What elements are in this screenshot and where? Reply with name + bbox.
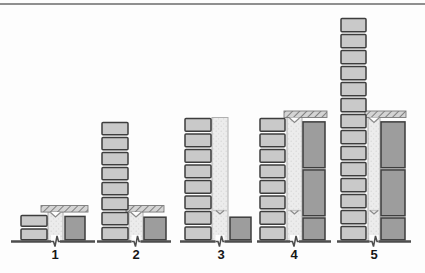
brick <box>341 35 366 48</box>
dark-block <box>65 216 85 239</box>
dark-block <box>303 122 325 168</box>
dark-block <box>230 217 251 240</box>
stage-4-label: 4 <box>282 247 306 262</box>
stage-5-label: 5 <box>362 247 386 262</box>
brick <box>260 212 285 225</box>
cap-plate <box>284 111 327 118</box>
dark-block <box>381 122 405 168</box>
brick <box>260 134 285 147</box>
brick <box>341 179 366 192</box>
dark-block <box>303 170 325 216</box>
brick <box>260 181 285 194</box>
brick <box>260 150 285 163</box>
cap-plate <box>365 111 406 118</box>
figure-page: 1 2 3 4 5 <box>0 0 425 273</box>
brick <box>341 99 366 112</box>
brick <box>260 119 285 132</box>
brick <box>341 211 366 224</box>
stage-4-group <box>257 111 331 248</box>
brick <box>341 83 366 96</box>
stage-5-group <box>337 19 411 249</box>
dark-block <box>381 218 405 240</box>
brick <box>341 67 366 80</box>
brick <box>185 165 211 178</box>
dark-block <box>144 217 166 240</box>
mortar-column <box>287 118 302 242</box>
brick <box>341 131 366 144</box>
brick <box>102 138 128 150</box>
stage-2-group <box>97 123 171 249</box>
brick <box>185 196 211 209</box>
brick <box>185 227 211 240</box>
mortar-column <box>368 118 380 242</box>
stage-2-label: 2 <box>124 247 148 262</box>
cap-plate <box>41 206 88 213</box>
brick <box>102 198 128 210</box>
brick <box>102 153 128 165</box>
brick <box>341 147 366 160</box>
brick <box>102 228 128 240</box>
brick <box>341 163 366 176</box>
brick <box>102 183 128 195</box>
brick <box>185 119 211 132</box>
brick <box>185 134 211 147</box>
brick <box>341 19 366 32</box>
brick <box>260 196 285 209</box>
brick <box>21 229 47 240</box>
brick <box>102 213 128 225</box>
brick <box>102 123 128 135</box>
brick <box>185 212 211 225</box>
stage-1-label: 1 <box>43 247 67 262</box>
masonry-stages-figure <box>0 0 425 273</box>
brick <box>260 165 285 178</box>
mortar-column <box>212 118 228 242</box>
brick <box>185 181 211 194</box>
cap-plate <box>126 206 164 213</box>
stage-3-label: 3 <box>209 247 233 262</box>
brick <box>185 150 211 163</box>
brick <box>102 168 128 180</box>
brick <box>260 227 285 240</box>
brick <box>341 195 366 208</box>
stage-1-group <box>11 206 95 248</box>
stage-3-group <box>180 118 252 249</box>
brick <box>341 51 366 64</box>
brick <box>341 227 366 240</box>
brick <box>341 115 366 128</box>
dark-block <box>381 170 405 216</box>
dark-block <box>303 218 325 240</box>
brick <box>21 216 47 227</box>
